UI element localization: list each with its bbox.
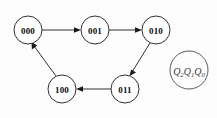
arrowhead-011-100 (76, 86, 83, 92)
node-010[interactable]: 010 (142, 16, 170, 44)
node-000[interactable]: 000 (14, 16, 42, 44)
arrowhead-000-001 (74, 27, 81, 33)
edge-010-to-011 (130, 43, 151, 76)
node-label-010: 010 (149, 26, 163, 36)
node-011[interactable]: 011 (111, 75, 139, 103)
node-100[interactable]: 100 (48, 75, 76, 103)
state-diagram: 000 001 010 100 011 Q2Q1Q0 (0, 0, 217, 118)
edge-000-to-001 (42, 27, 81, 33)
diagram-canvas: 000 001 010 100 011 Q2Q1Q0 (0, 0, 217, 118)
edge-100-to-000 (32, 42, 57, 76)
arrowhead-001-010 (135, 27, 142, 33)
node-label-011: 011 (118, 85, 132, 95)
edge-011-to-100 (76, 86, 111, 92)
edge-line-010-011 (132, 43, 150, 72)
node-001[interactable]: 001 (81, 16, 109, 44)
edge-line-100-000 (34, 46, 56, 76)
node-label-100: 100 (55, 85, 69, 95)
edge-001-to-010 (109, 27, 142, 33)
node-label-001: 001 (88, 26, 102, 36)
legend-label: Q2Q1Q0 (173, 66, 205, 78)
node-label-000: 000 (21, 26, 35, 36)
legend-var-q0-subscript: 0 (201, 70, 205, 77)
state-variable-legend: Q2Q1Q0 (170, 51, 208, 89)
